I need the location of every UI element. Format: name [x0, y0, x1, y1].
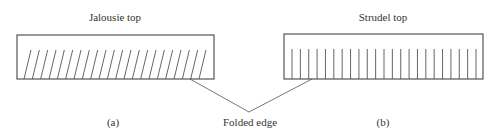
slit-line: [174, 50, 181, 79]
jalousie-diagonal-slits: [24, 50, 206, 79]
slit-line: [124, 50, 131, 79]
slit-line: [32, 50, 39, 79]
folded-edge-callout: Folded edge: [190, 79, 312, 128]
leader-line-right: [249, 79, 312, 112]
slit-line: [57, 50, 64, 79]
slit-line: [41, 50, 48, 79]
slit-line: [199, 50, 206, 79]
slit-line: [82, 50, 89, 79]
slit-line: [182, 50, 189, 79]
caption-b: (b): [377, 116, 390, 129]
slit-line: [166, 50, 173, 79]
pastry-top-diagram: Jalousie top (a) Strudel top (b) Folded …: [0, 0, 504, 138]
slit-line: [74, 50, 81, 79]
slit-line: [99, 50, 106, 79]
slit-line: [149, 50, 156, 79]
panel-strudel: Strudel top (b): [284, 11, 483, 129]
slit-line: [107, 50, 114, 79]
strudel-pastry-rect: [284, 34, 483, 79]
slit-line: [24, 50, 31, 79]
slit-line: [49, 50, 56, 79]
jalousie-title: Jalousie top: [89, 11, 142, 23]
jalousie-pastry-rect: [17, 35, 214, 79]
slit-line: [157, 50, 164, 79]
slit-line: [191, 50, 198, 79]
panel-jalousie: Jalousie top (a): [17, 11, 214, 129]
slit-line: [66, 50, 73, 79]
slit-line: [91, 50, 98, 79]
strudel-title: Strudel top: [359, 11, 408, 23]
strudel-vertical-slits: [292, 49, 476, 79]
slit-line: [141, 50, 148, 79]
slit-line: [132, 50, 139, 79]
caption-a: (a): [107, 116, 120, 129]
folded-edge-label: Folded edge: [223, 116, 277, 128]
slit-line: [116, 50, 123, 79]
leader-line-left: [190, 79, 249, 112]
